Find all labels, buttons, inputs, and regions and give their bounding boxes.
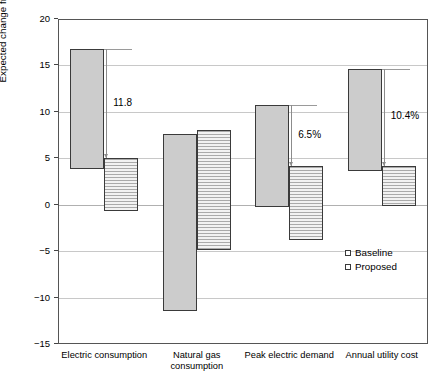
y-tick-mark--10	[54, 297, 58, 298]
annotation-line-3	[384, 69, 385, 166]
bar-proposed-3[interactable]	[382, 166, 416, 206]
x-axis-label-1: Natural gas consumption	[165, 350, 229, 372]
bar-baseline-0[interactable]	[70, 49, 104, 170]
legend-item-proposed[interactable]: Proposed	[345, 260, 397, 273]
y-tick-mark--5	[54, 250, 58, 251]
annotation-cap-top-3	[382, 69, 410, 70]
annotation-cap-top-2	[289, 105, 317, 106]
bar-proposed-1[interactable]	[197, 130, 231, 251]
annotation-line-2	[291, 105, 292, 165]
annotation-line-0	[106, 49, 107, 159]
y-tick-label-0: 0	[10, 200, 50, 210]
annotation-cap-top-0	[104, 49, 132, 50]
annotation-label-0: 11.8	[113, 97, 132, 108]
annotation-arrowhead-2	[289, 162, 293, 166]
bar-baseline-3[interactable]	[348, 69, 382, 171]
x-axis-label-3: Annual utility cost	[330, 350, 434, 361]
y-axis-title: Expected change from current climate (%)	[0, 0, 8, 96]
legend-item-baseline[interactable]: Baseline	[345, 246, 397, 259]
y-tick-mark-5	[54, 157, 58, 158]
annotation-label-2: 6.5%	[298, 129, 321, 140]
y-tick-mark-10	[54, 111, 58, 112]
y-tick-label--15: −15	[10, 339, 50, 349]
y-tick-label-20: 20	[10, 14, 50, 24]
annotation-arrowhead-3	[382, 162, 386, 166]
y-tick-label--5: −5	[10, 246, 50, 256]
y-tick-mark-0	[54, 204, 58, 205]
bar-proposed-0[interactable]	[104, 158, 138, 211]
legend-swatch-baseline-icon	[345, 250, 351, 256]
x-axis-label-2: Peak electric demand	[237, 350, 341, 361]
y-tick-label-5: 5	[10, 153, 50, 163]
y-tick-label--10: −10	[10, 293, 50, 303]
y-tick-mark--15	[54, 343, 58, 344]
legend-swatch-proposed-icon	[345, 264, 351, 270]
legend-label-baseline: Baseline	[355, 246, 393, 259]
chart-legend: Baseline Proposed	[345, 246, 397, 274]
y-tick-mark-20	[54, 18, 58, 19]
annotation-arrowhead-0	[104, 154, 108, 158]
bar-baseline-2[interactable]	[255, 105, 289, 206]
x-axis-label-0: Electric consumption	[52, 350, 156, 361]
y-tick-mark-15	[54, 64, 58, 65]
annotation-label-3: 10.4%	[391, 110, 419, 121]
y-tick-label-10: 10	[10, 107, 50, 117]
bar-baseline-1[interactable]	[163, 134, 197, 310]
gridline-15	[59, 65, 427, 66]
gridline--10	[59, 298, 427, 299]
legend-label-proposed: Proposed	[355, 260, 397, 273]
bar-proposed-2[interactable]	[289, 166, 323, 240]
y-tick-label-15: 15	[10, 60, 50, 70]
